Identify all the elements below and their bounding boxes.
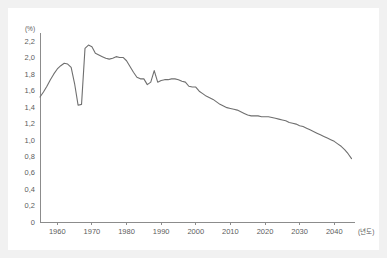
y-tick-label: 0,4 bbox=[25, 185, 35, 194]
y-axis-unit-label: (%) bbox=[25, 25, 35, 33]
y-tick-label: 2,0 bbox=[25, 53, 35, 62]
chart-svg: 00,20,40,60,81,01,21,41,61,82,02,2 19601… bbox=[8, 8, 379, 250]
y-tick-label: 1,0 bbox=[25, 136, 35, 145]
data-series-line bbox=[40, 45, 352, 159]
x-tick-label: 1960 bbox=[49, 227, 66, 236]
page-root: 00,20,40,60,81,01,21,41,61,82,02,2 19601… bbox=[0, 0, 387, 258]
y-tick-label: 1,2 bbox=[25, 119, 35, 128]
y-tick-label: 1,4 bbox=[25, 103, 35, 112]
x-tick-label: 1980 bbox=[118, 227, 135, 236]
x-axis-tick-labels: 196019701980199020002010202020302040 bbox=[49, 227, 343, 236]
x-tick-label: 2020 bbox=[257, 227, 274, 236]
y-tick-label: 1,6 bbox=[25, 86, 35, 95]
x-tick-label: 1990 bbox=[153, 227, 170, 236]
y-tick-label: 0,8 bbox=[25, 152, 35, 161]
y-tick-label: 2,2 bbox=[25, 37, 35, 46]
line-chart: 00,20,40,60,81,01,21,41,61,82,02,2 19601… bbox=[8, 8, 379, 250]
x-axis-caption-label: (년도) bbox=[358, 227, 374, 236]
y-tick-label: 0 bbox=[31, 218, 35, 227]
y-axis-tick-labels: 00,20,40,60,81,01,21,41,61,82,02,2 bbox=[25, 37, 35, 227]
x-tick-label: 2030 bbox=[291, 227, 308, 236]
x-tick-label: 2010 bbox=[222, 227, 239, 236]
y-tick-label: 0,6 bbox=[25, 168, 35, 177]
chart-card: 00,20,40,60,81,01,21,41,61,82,02,2 19601… bbox=[8, 8, 379, 250]
y-tick-label: 0,2 bbox=[25, 201, 35, 210]
x-tick-label: 2000 bbox=[187, 227, 204, 236]
x-tick-label: 2040 bbox=[326, 227, 343, 236]
x-tick-label: 1970 bbox=[84, 227, 101, 236]
y-tick-label: 1,8 bbox=[25, 70, 35, 79]
